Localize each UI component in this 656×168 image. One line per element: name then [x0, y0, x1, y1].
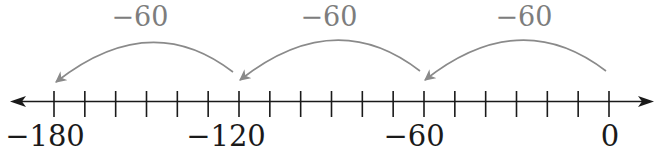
jump-label-2: −60 — [301, 1, 358, 32]
tick-label-minus-180: −180 — [5, 119, 85, 153]
jump-arrow-minus-60-to-minus-120 — [240, 40, 420, 80]
number-line-diagram: −180 −120 −60 0 −60 −60 −60 — [0, 0, 656, 168]
jump-label-1: −60 — [496, 1, 553, 32]
jump-labels: −60 −60 −60 — [112, 1, 553, 32]
tick-label-minus-60: −60 — [383, 119, 444, 153]
jump-arrow-minus-120-to-minus-180 — [56, 42, 233, 82]
tick-label-zero: 0 — [601, 119, 619, 153]
jump-arrows — [56, 40, 606, 82]
tick-label-minus-120: −120 — [186, 119, 266, 153]
tick-labels: −180 −120 −60 0 — [5, 119, 619, 153]
jump-arrow-0-to-minus-60 — [425, 40, 606, 80]
tick-marks — [54, 91, 609, 117]
jump-label-3: −60 — [112, 1, 169, 32]
